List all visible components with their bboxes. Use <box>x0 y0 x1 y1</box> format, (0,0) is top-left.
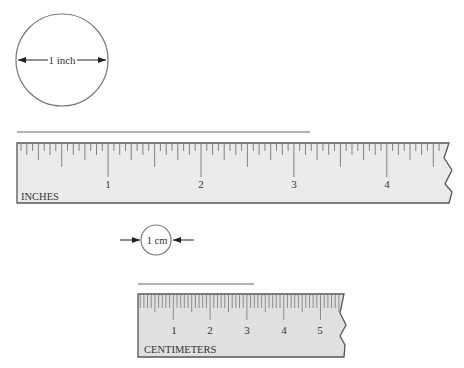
inch-number-4: 4 <box>384 178 390 190</box>
cm-unit-label: CENTIMETERS <box>144 344 216 355</box>
cm-number-1: 1 <box>171 324 177 336</box>
inch-circle: 1 inch <box>16 14 108 106</box>
cm-number-4: 4 <box>281 324 287 336</box>
measurement-diagram: 1 inch 1 2 3 4 INCHES 1 cm 1 2 3 4 5 CEN… <box>0 0 464 368</box>
cm-ruler: 1 2 3 4 5 CENTIMETERS <box>138 294 346 357</box>
cm-circle-label: 1 cm <box>147 235 168 246</box>
inch-ruler: 1 2 3 4 INCHES <box>17 143 452 203</box>
cm-number-2: 2 <box>207 324 213 336</box>
cm-number-3: 3 <box>244 324 250 336</box>
inch-circle-label: 1 inch <box>48 54 76 66</box>
cm-circle: 1 cm <box>120 225 194 255</box>
inch-number-1: 1 <box>105 178 111 190</box>
inch-number-3: 3 <box>291 178 297 190</box>
cm-number-5: 5 <box>317 324 323 336</box>
inch-number-2: 2 <box>198 178 204 190</box>
inch-unit-label: INCHES <box>21 191 59 202</box>
